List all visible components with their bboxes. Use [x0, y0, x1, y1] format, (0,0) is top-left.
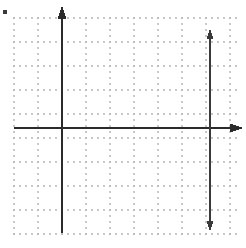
grid-dot — [133, 221, 135, 223]
grid-dot — [73, 113, 75, 115]
grid-dot — [133, 167, 135, 169]
grid-dot — [229, 113, 231, 115]
grid-dot — [25, 89, 27, 91]
grid-dot — [205, 83, 207, 85]
grid-dot — [157, 167, 159, 169]
grid-dot — [229, 59, 231, 61]
grid-dot — [37, 71, 39, 73]
grid-dot — [181, 191, 183, 193]
grid-dot — [109, 197, 111, 199]
grid-dot — [121, 185, 123, 187]
grid-dot — [151, 41, 153, 43]
grid-dot — [157, 83, 159, 85]
grid-dot — [37, 95, 39, 97]
grid-dot — [181, 35, 183, 37]
grid-dot — [217, 89, 219, 91]
grid-dot — [175, 185, 177, 187]
grid-dot — [55, 209, 57, 211]
grid-dot — [229, 23, 231, 25]
grid-dot — [229, 101, 231, 103]
grid-dot — [109, 191, 111, 193]
grid-dot — [169, 161, 171, 163]
grid-dot — [43, 113, 45, 115]
grid-dot — [13, 197, 15, 199]
grid-dot — [109, 179, 111, 181]
grid-dot — [199, 233, 201, 235]
grid-dot — [85, 41, 87, 43]
grid-dot — [43, 41, 45, 43]
grid-dot — [103, 161, 105, 163]
grid-dot — [229, 137, 231, 139]
grid-dot — [13, 161, 15, 163]
grid-dot — [103, 41, 105, 43]
grid-dot — [91, 209, 93, 211]
grid-dot — [43, 161, 45, 163]
grid-dot — [67, 209, 69, 211]
grid-dot — [139, 185, 141, 187]
grid-dot — [85, 185, 87, 187]
grid-dot — [13, 119, 15, 121]
grid-dot — [43, 89, 45, 91]
grid-dot — [67, 41, 69, 43]
grid-dot — [223, 161, 225, 163]
grid-dot — [229, 41, 231, 43]
grid-dot — [13, 179, 15, 181]
grid-dot — [13, 29, 15, 31]
grid-dot — [187, 113, 189, 115]
grid-dot — [133, 35, 135, 37]
grid-dot — [85, 161, 87, 163]
grid-dot — [181, 101, 183, 103]
grid-dot — [37, 65, 39, 67]
grid-dot — [13, 107, 15, 109]
grid-dot — [205, 71, 207, 73]
grid-dot — [97, 233, 99, 235]
grid-dot — [121, 137, 123, 139]
grid-dot — [109, 155, 111, 157]
grid-dot — [79, 161, 81, 163]
grid-dot — [229, 89, 231, 91]
grid-dot — [229, 47, 231, 49]
grid-dot — [19, 185, 21, 187]
grid-dot — [127, 89, 129, 91]
grid-dot — [139, 41, 141, 43]
grid-dot — [181, 185, 183, 187]
grid-dot — [97, 185, 99, 187]
grid-dot — [217, 113, 219, 115]
grid-dot — [205, 227, 207, 229]
grid-dot — [73, 41, 75, 43]
grid-dot — [187, 89, 189, 91]
grid-dot — [49, 89, 51, 91]
grid-dot — [109, 185, 111, 187]
grid-dot — [157, 197, 159, 199]
grid-dot — [49, 17, 51, 19]
grid-dot — [229, 185, 231, 187]
grid-dot — [13, 215, 15, 217]
grid-dot — [229, 167, 231, 169]
grid-dot — [157, 41, 159, 43]
grid-dot — [181, 167, 183, 169]
grid-dot — [181, 197, 183, 199]
grid-dot — [43, 65, 45, 67]
grid-dot — [127, 113, 129, 115]
grid-dot — [163, 41, 165, 43]
grid-dot — [133, 113, 135, 115]
grid-dot — [73, 65, 75, 67]
grid-dot — [13, 41, 15, 43]
grid-dot — [43, 17, 45, 19]
grid-dot — [79, 113, 81, 115]
grid-dot — [31, 137, 33, 139]
grid-dot — [145, 233, 147, 235]
grid-dot — [91, 185, 93, 187]
grid-dot — [181, 113, 183, 115]
grid-dot — [91, 161, 93, 163]
grid-dot — [25, 113, 27, 115]
grid-dot — [133, 131, 135, 133]
grid-dot — [13, 59, 15, 61]
grid-dot — [229, 197, 231, 199]
grid-dot — [25, 161, 27, 163]
grid-dot — [121, 161, 123, 163]
grid-dot — [109, 77, 111, 79]
grid-dot — [145, 161, 147, 163]
grid-dot — [181, 233, 183, 235]
grid-dot — [109, 149, 111, 151]
